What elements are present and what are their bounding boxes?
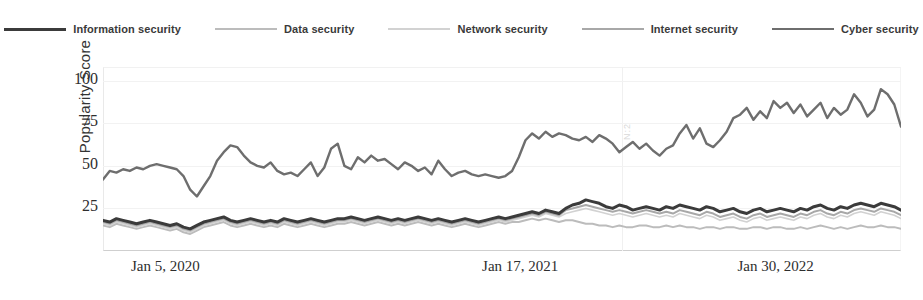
legend-item-internet-security: Internet security bbox=[582, 23, 738, 35]
legend-item-data-security: Data security bbox=[215, 23, 354, 35]
x-tick-1: Jan 17, 2021 bbox=[482, 258, 558, 275]
y-tick-75: 75 bbox=[54, 112, 98, 130]
legend-label-data-security: Data security bbox=[284, 23, 354, 35]
line-series-group bbox=[103, 67, 901, 251]
chart-legend: Information security Data security Netwo… bbox=[0, 18, 923, 40]
legend-swatch-data-security bbox=[215, 28, 277, 30]
legend-label-internet-security: Internet security bbox=[651, 23, 738, 35]
legend-item-network-security: Network security bbox=[388, 23, 547, 35]
x-axis-ticks: Jan 5, 2020 Jan 17, 2021 Jan 30, 2022 bbox=[103, 258, 901, 282]
legend-item-cyber-security: Cyber security bbox=[772, 23, 919, 35]
legend-swatch-cyber-security bbox=[772, 28, 834, 30]
legend-swatch-network-security bbox=[388, 28, 450, 30]
scan-watermark: N:2 bbox=[622, 123, 632, 140]
y-tick-100: 100 bbox=[54, 70, 98, 88]
y-tick-50: 50 bbox=[54, 155, 98, 173]
x-tick-2: Jan 30, 2022 bbox=[737, 258, 813, 275]
series-line-cyber-security bbox=[103, 89, 901, 196]
chart-plot-area: N:2 bbox=[103, 67, 901, 251]
y-axis-ticks: 100 75 50 25 bbox=[52, 0, 98, 300]
x-tick-0: Jan 5, 2020 bbox=[131, 258, 200, 275]
legend-swatch-internet-security bbox=[582, 28, 644, 30]
legend-label-cyber-security: Cyber security bbox=[841, 23, 919, 35]
legend-label-network-security: Network security bbox=[457, 23, 547, 35]
y-tick-25: 25 bbox=[54, 197, 98, 215]
